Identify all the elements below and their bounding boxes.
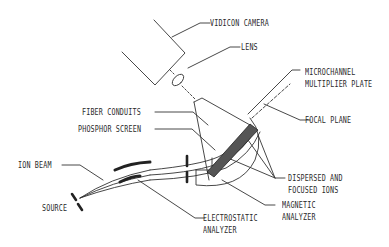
label-magnetic-line1: MAGNETIC <box>282 200 316 212</box>
label-electrostatic-line2: ANALYZER <box>203 225 237 237</box>
label-focal-plane: FOCAL PLANE <box>305 115 351 127</box>
vidicon-camera-icon <box>122 20 185 85</box>
label-source: SOURCE <box>42 203 67 215</box>
label-electrostatic-line1: ELECTROSTATIC <box>203 213 258 225</box>
source-icon <box>72 194 82 210</box>
label-microchannel-line1: MICROCHANNEL <box>305 67 355 79</box>
label-lens: LENS <box>241 42 258 54</box>
label-microchannel-line2: MULTIPLIER PLATE <box>305 79 372 91</box>
label-fiber-conduits: FIBER CONDUITS <box>82 107 141 119</box>
label-vidicon-camera: VIDICON CAMERA <box>210 18 269 30</box>
label-dispersed-line1: DISPERSED AND <box>288 173 343 185</box>
label-ion-beam: ION BEAM <box>18 160 52 172</box>
lens-icon <box>170 70 196 100</box>
label-phosphor-screen: PHOSPHOR SCREEN <box>78 124 141 136</box>
label-magnetic-line2: ANALYZER <box>282 212 316 224</box>
label-dispersed-line2: FOCUSED IONS <box>288 185 338 197</box>
mass-spectrometer-diagram: VIDICON CAMERA LENS MICROCHANNEL MULTIPL… <box>0 0 389 247</box>
microchannel-plate-icon <box>207 124 258 177</box>
